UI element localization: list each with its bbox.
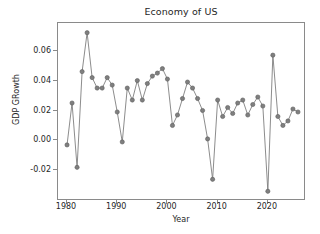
data-point-marker: [256, 95, 260, 99]
series-line: [67, 33, 298, 192]
x-axis-tick-labels: 19801990200020102020: [57, 202, 305, 216]
data-point-marker: [105, 76, 109, 80]
data-point-marker: [246, 113, 250, 117]
y-axis-tick-marks: [0, 22, 57, 200]
data-point-marker: [70, 101, 74, 105]
data-point-marker: [175, 113, 179, 117]
data-point-marker: [120, 140, 124, 144]
plot-area: [57, 22, 305, 200]
data-point-marker: [160, 67, 164, 71]
data-point-marker: [200, 108, 204, 112]
data-point-marker: [85, 31, 89, 35]
data-point-marker: [241, 98, 245, 102]
gdp-growth-series: [58, 23, 306, 201]
data-point-marker: [296, 110, 300, 114]
data-point-marker: [115, 110, 119, 114]
data-point-marker: [281, 123, 285, 127]
data-point-marker: [95, 86, 99, 90]
data-point-marker: [231, 111, 235, 115]
data-point-marker: [226, 105, 230, 109]
data-point-marker: [165, 77, 169, 81]
data-point-marker: [65, 143, 69, 147]
chart-figure: Economy of US GDP GRowth -0.020.000.020.…: [0, 0, 320, 234]
data-point-marker: [206, 137, 210, 141]
data-point-marker: [145, 81, 149, 85]
data-point-marker: [276, 114, 280, 118]
data-point-marker: [271, 53, 275, 57]
data-point-marker: [185, 80, 189, 84]
data-point-marker: [150, 74, 154, 78]
x-axis-label: Year: [57, 215, 305, 224]
data-point-marker: [140, 98, 144, 102]
data-point-marker: [261, 104, 265, 108]
x-tick-label: 2010: [206, 202, 226, 211]
data-point-marker: [90, 76, 94, 80]
data-point-marker: [125, 86, 129, 90]
data-point-marker: [80, 70, 84, 74]
chart-title: Economy of US: [57, 6, 305, 17]
data-point-marker: [180, 96, 184, 100]
data-point-marker: [291, 107, 295, 111]
data-point-marker: [190, 86, 194, 90]
x-tick-label: 2020: [257, 202, 277, 211]
data-point-marker: [216, 98, 220, 102]
data-point-marker: [221, 114, 225, 118]
data-point-marker: [236, 101, 240, 105]
data-point-marker: [211, 177, 215, 181]
x-tick-label: 1980: [56, 202, 76, 211]
data-point-marker: [195, 96, 199, 100]
data-point-marker: [110, 83, 114, 87]
data-point-marker: [251, 102, 255, 106]
data-point-marker: [266, 189, 270, 193]
data-point-marker: [155, 71, 159, 75]
data-point-marker: [286, 119, 290, 123]
data-point-marker: [100, 86, 104, 90]
data-point-marker: [135, 78, 139, 82]
data-point-marker: [75, 165, 79, 169]
data-point-marker: [130, 98, 134, 102]
data-point-marker: [170, 123, 174, 127]
x-tick-label: 1990: [106, 202, 126, 211]
x-tick-label: 2000: [156, 202, 176, 211]
